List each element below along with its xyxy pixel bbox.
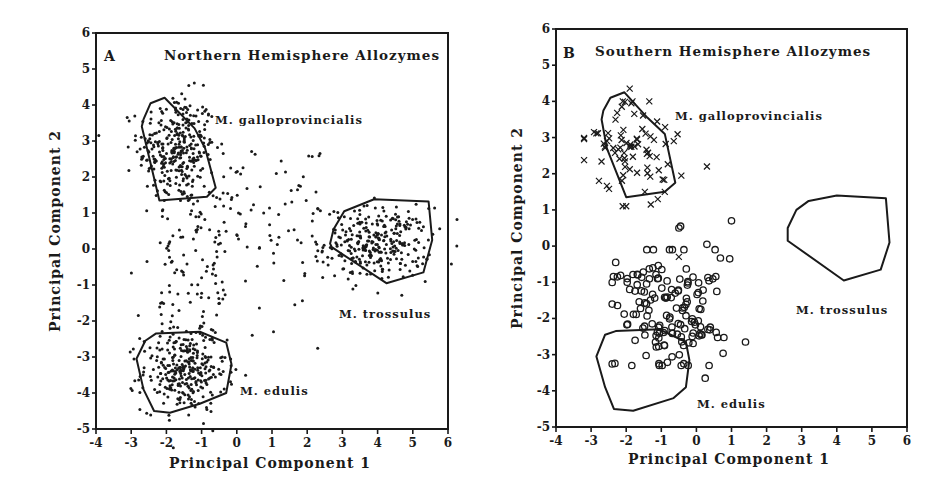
data-point	[250, 150, 253, 153]
data-point	[219, 356, 222, 359]
data-point	[183, 401, 186, 404]
data-point	[215, 196, 218, 199]
data-point	[199, 366, 202, 369]
data-point	[236, 234, 239, 237]
data-point	[143, 366, 146, 369]
data-point	[219, 390, 222, 393]
data-point	[182, 131, 185, 134]
data-point	[363, 205, 366, 208]
data-point	[182, 118, 185, 121]
data-point	[357, 248, 360, 251]
y-tick-label: 4	[82, 98, 90, 112]
data-point	[418, 221, 421, 224]
data-point	[208, 141, 211, 144]
data-point-cross	[631, 111, 637, 117]
data-point-cross	[634, 136, 640, 142]
data-point	[354, 284, 357, 287]
data-point	[381, 219, 384, 222]
data-point	[189, 104, 192, 107]
data-point	[152, 155, 155, 158]
data-point	[168, 364, 171, 367]
data-point	[169, 384, 172, 387]
data-point	[166, 395, 169, 398]
data-point	[221, 298, 224, 301]
data-point	[196, 369, 199, 372]
data-point	[214, 376, 217, 379]
data-point	[315, 190, 318, 193]
data-point	[169, 320, 172, 323]
data-point	[317, 207, 320, 210]
data-point	[186, 120, 189, 123]
data-point	[187, 385, 190, 388]
data-point	[184, 135, 187, 138]
data-point	[208, 338, 211, 341]
data-point	[191, 367, 194, 370]
data-point	[165, 137, 168, 140]
data-point	[188, 348, 191, 351]
data-point	[230, 364, 233, 367]
data-point	[149, 375, 152, 378]
data-point	[163, 174, 166, 177]
data-point	[169, 184, 172, 187]
data-point	[211, 394, 214, 397]
data-point	[200, 362, 203, 365]
data-point	[171, 97, 174, 100]
data-point	[203, 123, 206, 126]
data-point	[177, 189, 180, 192]
data-point	[178, 401, 181, 404]
data-point	[394, 250, 397, 253]
data-point	[210, 410, 213, 413]
data-point	[162, 155, 165, 158]
data-point	[235, 171, 238, 174]
data-point	[311, 235, 314, 238]
panel-b-xlabel: Principal Component 1	[628, 451, 830, 467]
data-point	[128, 119, 131, 122]
data-point	[146, 260, 149, 263]
data-point	[383, 235, 386, 238]
data-point	[166, 342, 169, 345]
data-point	[185, 118, 188, 121]
panel-a-letter: A	[103, 48, 116, 64]
data-point	[217, 297, 220, 300]
data-point	[163, 358, 166, 361]
data-point	[171, 138, 174, 141]
data-point	[293, 303, 296, 306]
data-point	[358, 230, 361, 233]
data-point-circle	[676, 352, 682, 358]
data-point	[242, 166, 245, 169]
data-point	[210, 115, 213, 118]
data-point	[373, 262, 376, 265]
x-tick-label: 5	[868, 434, 876, 448]
data-point	[175, 101, 178, 104]
data-point-cross	[651, 137, 657, 143]
data-point	[175, 268, 178, 271]
data-point	[354, 249, 357, 252]
data-point	[290, 189, 293, 192]
data-point	[341, 229, 344, 232]
data-point	[166, 170, 169, 173]
panel-b-letter: B	[563, 45, 575, 61]
data-point	[198, 130, 201, 133]
data-point	[431, 233, 434, 236]
data-point	[201, 315, 204, 318]
data-point	[177, 113, 180, 116]
data-point	[387, 262, 390, 265]
x-tick-label: -2	[620, 434, 633, 448]
data-point	[161, 348, 164, 351]
x-tick-label: 1	[268, 436, 276, 450]
data-point	[207, 377, 210, 380]
data-point-circle	[728, 218, 734, 224]
data-point	[239, 172, 242, 175]
data-point	[344, 234, 347, 237]
data-point	[162, 128, 165, 131]
data-point	[204, 355, 207, 358]
figure: -4-3-2-10123456-5-4-3-2-10123456 A North…	[0, 0, 950, 499]
data-point	[149, 346, 152, 349]
x-tick-label: 0	[692, 434, 700, 448]
data-point	[190, 169, 193, 172]
data-point	[405, 226, 408, 229]
data-point	[272, 330, 275, 333]
data-point	[433, 206, 436, 209]
data-point	[203, 218, 206, 221]
data-point	[222, 175, 225, 178]
